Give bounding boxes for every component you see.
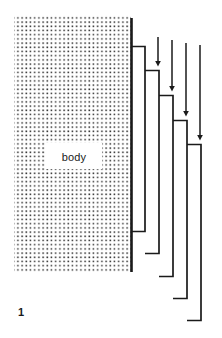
body-region: body [14,15,131,272]
figure-canvas: body 1 [0,0,222,338]
arrows-group [158,37,200,138]
bar-3 [159,96,173,277]
body-label: body [62,151,87,163]
bar-1 [131,47,145,232]
bar-4 [173,121,187,299]
bar-2 [145,71,159,254]
figure-number: 1 [18,306,24,318]
bars-group [131,47,201,321]
bar-5 [187,145,201,321]
figure-diagram: body 1 [0,0,222,338]
